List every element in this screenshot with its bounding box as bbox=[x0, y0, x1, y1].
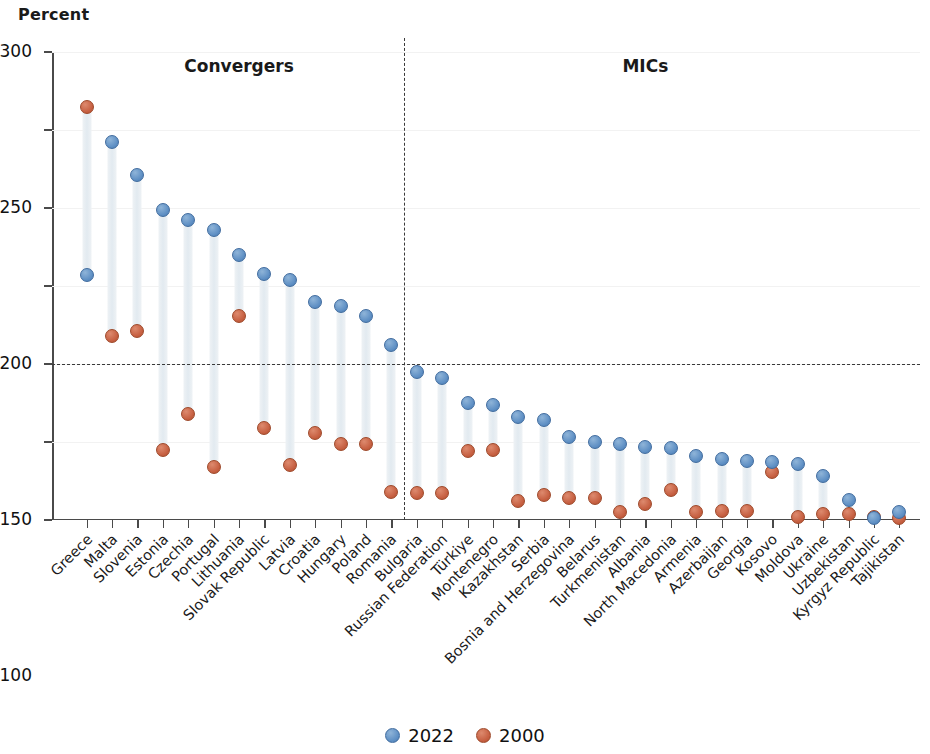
data-point-2000 bbox=[537, 488, 551, 502]
data-point-2022 bbox=[410, 365, 424, 379]
connector-bar bbox=[108, 142, 117, 335]
x-axis-tick bbox=[493, 520, 494, 528]
data-point-2022 bbox=[664, 441, 678, 455]
data-point-2022 bbox=[181, 213, 195, 227]
data-point-2000 bbox=[257, 421, 271, 435]
connector-bar bbox=[362, 316, 371, 444]
x-axis-tick bbox=[341, 520, 342, 528]
x-axis-tick bbox=[747, 520, 748, 528]
data-point-2000 bbox=[816, 507, 830, 521]
x-axis-tick bbox=[569, 520, 570, 528]
data-point-2000 bbox=[486, 443, 500, 457]
data-point-2022 bbox=[867, 511, 881, 525]
data-point-2022 bbox=[638, 440, 652, 454]
x-axis-tick bbox=[645, 520, 646, 528]
group-label-mics: MICs bbox=[622, 56, 668, 76]
x-axis-tick bbox=[595, 520, 596, 528]
x-axis-tick bbox=[722, 520, 723, 528]
legend-item-2000[interactable]: 2000 bbox=[476, 725, 545, 746]
data-point-2022 bbox=[689, 449, 703, 463]
data-point-2000 bbox=[156, 443, 170, 457]
data-point-2022 bbox=[740, 454, 754, 468]
data-point-2022 bbox=[715, 452, 729, 466]
data-point-2000 bbox=[715, 504, 729, 518]
data-point-2000 bbox=[334, 437, 348, 451]
x-axis-tick bbox=[468, 520, 469, 528]
plot-area: 050100150200250300 ConvergersMICs bbox=[52, 52, 920, 520]
x-axis-tick bbox=[544, 520, 545, 528]
data-point-2022 bbox=[486, 398, 500, 412]
data-point-2000 bbox=[207, 460, 221, 474]
y-axis-tick: 50 bbox=[44, 441, 52, 443]
connector-bar bbox=[209, 230, 218, 467]
connector-bar bbox=[158, 210, 167, 450]
data-point-2022 bbox=[511, 410, 525, 424]
x-axis-tick bbox=[87, 520, 88, 528]
x-axis-line bbox=[52, 519, 920, 521]
connector-bar bbox=[590, 442, 599, 498]
x-axis-tick bbox=[163, 520, 164, 528]
group-divider-line bbox=[404, 38, 405, 520]
gridline bbox=[52, 442, 920, 443]
x-axis-tick bbox=[671, 520, 672, 528]
x-axis-tick bbox=[290, 520, 291, 528]
data-point-2000 bbox=[562, 491, 576, 505]
data-point-2000 bbox=[435, 486, 449, 500]
data-point-2022 bbox=[80, 268, 94, 282]
data-point-2000 bbox=[410, 486, 424, 500]
data-point-2000 bbox=[740, 504, 754, 518]
x-axis-tick bbox=[112, 520, 113, 528]
data-point-2000 bbox=[80, 100, 94, 114]
connector-bar bbox=[311, 302, 320, 433]
gridline bbox=[52, 286, 920, 287]
legend-item-2022[interactable]: 2022 bbox=[385, 725, 454, 746]
connector-bar bbox=[184, 220, 193, 413]
x-axis-tick bbox=[239, 520, 240, 528]
data-point-2000 bbox=[359, 437, 373, 451]
y-axis-tick: 300 bbox=[44, 51, 52, 53]
x-axis-tick bbox=[366, 520, 367, 528]
x-axis-tick bbox=[391, 520, 392, 528]
connector-bar bbox=[260, 274, 269, 428]
x-axis-tick bbox=[849, 520, 850, 528]
x-axis-tick bbox=[417, 520, 418, 528]
y-axis-tick: 250 bbox=[44, 129, 52, 131]
data-point-2000 bbox=[842, 507, 856, 521]
y-axis-tick-label: 250 bbox=[0, 197, 32, 217]
x-axis-tick bbox=[442, 520, 443, 528]
data-point-2022 bbox=[435, 371, 449, 385]
gridline bbox=[52, 208, 920, 209]
x-axis-tick bbox=[214, 520, 215, 528]
data-point-2022 bbox=[207, 223, 221, 237]
circle-marker-icon bbox=[476, 728, 491, 743]
x-axis-tick bbox=[620, 520, 621, 528]
data-point-2022 bbox=[562, 430, 576, 444]
data-point-2022 bbox=[105, 135, 119, 149]
data-point-2000 bbox=[283, 458, 297, 472]
connector-bar bbox=[82, 107, 91, 275]
data-point-2022 bbox=[156, 203, 170, 217]
data-point-2022 bbox=[257, 267, 271, 281]
gridline bbox=[52, 52, 920, 53]
data-point-2000 bbox=[130, 324, 144, 338]
connector-bar bbox=[615, 444, 624, 513]
x-axis-tick bbox=[315, 520, 316, 528]
data-point-2000 bbox=[791, 510, 805, 524]
data-point-2022 bbox=[816, 469, 830, 483]
data-point-2000 bbox=[588, 491, 602, 505]
x-axis-tick bbox=[137, 520, 138, 528]
data-point-2022 bbox=[308, 295, 322, 309]
connector-bar bbox=[133, 175, 142, 331]
data-point-2000 bbox=[308, 426, 322, 440]
data-point-2022 bbox=[842, 493, 856, 507]
data-point-2000 bbox=[689, 505, 703, 519]
x-axis-tick bbox=[518, 520, 519, 528]
x-axis-tick bbox=[696, 520, 697, 528]
y-axis-tick-label: 100 bbox=[0, 665, 32, 685]
x-axis-tick bbox=[188, 520, 189, 528]
connector-bar bbox=[514, 417, 523, 501]
connector-bar bbox=[641, 447, 650, 505]
data-point-2000 bbox=[664, 483, 678, 497]
data-point-2000 bbox=[613, 505, 627, 519]
data-point-2000 bbox=[638, 497, 652, 511]
